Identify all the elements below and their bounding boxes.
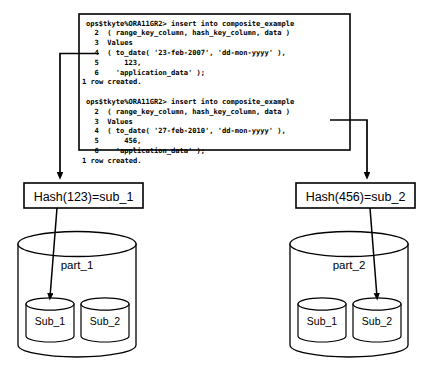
- part1-sub1-top: [26, 298, 74, 310]
- partition-cylinder-right: part_2 Sub_1 Sub_2: [290, 232, 408, 358]
- code-line: 6 'application_data' );: [86, 68, 205, 77]
- part1-cylinder-top: [18, 232, 136, 257]
- code-line: 4 ( to_date( '23-feb-2007', 'dd-mon-yyyy…: [86, 48, 286, 57]
- sql-code-block: ops$tkyte%ORA11GR2> insert into composit…: [79, 14, 350, 165]
- code-line: ops$tkyte%ORA11GR2> insert into composit…: [86, 97, 294, 106]
- code-line: 2 ( range_key_column, hash_key_column, d…: [86, 107, 290, 116]
- part1-sub2-top: [81, 298, 129, 310]
- code-line: 1 row created.: [82, 156, 142, 165]
- part2-sub2-label: Sub_2: [362, 315, 393, 327]
- subpartition-part2-sub1: Sub_1: [298, 298, 346, 342]
- part2-sub2-top: [353, 298, 401, 310]
- code-line: 1 row created.: [82, 77, 142, 86]
- code-line: ops$tkyte%ORA11GR2> insert into composit…: [86, 19, 294, 28]
- part1-sub1-label: Sub_1: [35, 315, 66, 327]
- part2-label: part_2: [333, 259, 366, 271]
- part1-label: part_1: [61, 259, 94, 271]
- hash-left-label: Hash(123)=sub_1: [34, 190, 134, 204]
- composite-partition-diagram: ops$tkyte%ORA11GR2> insert into composit…: [0, 0, 433, 365]
- hash-box-right: Hash(456)=sub_2: [296, 183, 415, 208]
- code-line: 4 ( to_date( '27-feb-2010', 'dd-mon-yyyy…: [86, 126, 286, 135]
- code-line: 3 Values: [86, 117, 133, 126]
- subpartition-part1-sub1: Sub_1: [26, 298, 74, 342]
- part2-sub1-top: [298, 298, 346, 310]
- code-line: 5 456,: [86, 136, 141, 145]
- partition-cylinder-left: part_1 Sub_1 Sub_2: [18, 232, 136, 358]
- part2-sub1-label: Sub_1: [307, 315, 338, 327]
- subpartition-part1-sub2: Sub_2: [81, 298, 129, 342]
- hash-right-label: Hash(456)=sub_2: [306, 190, 406, 204]
- code-line: 3 Values: [86, 38, 133, 47]
- hash-box-left: Hash(123)=sub_1: [24, 183, 143, 208]
- code-line: 6 'application_data' );: [86, 146, 205, 155]
- code-line: 2 ( range_key_column, hash_key_column, d…: [86, 28, 290, 37]
- diagram-canvas: ops$tkyte%ORA11GR2> insert into composit…: [0, 0, 433, 365]
- part2-cylinder-top: [290, 232, 408, 257]
- subpartition-part2-sub2: Sub_2: [353, 298, 401, 342]
- part1-sub2-label: Sub_2: [90, 315, 121, 327]
- code-line: 5 123,: [86, 58, 141, 67]
